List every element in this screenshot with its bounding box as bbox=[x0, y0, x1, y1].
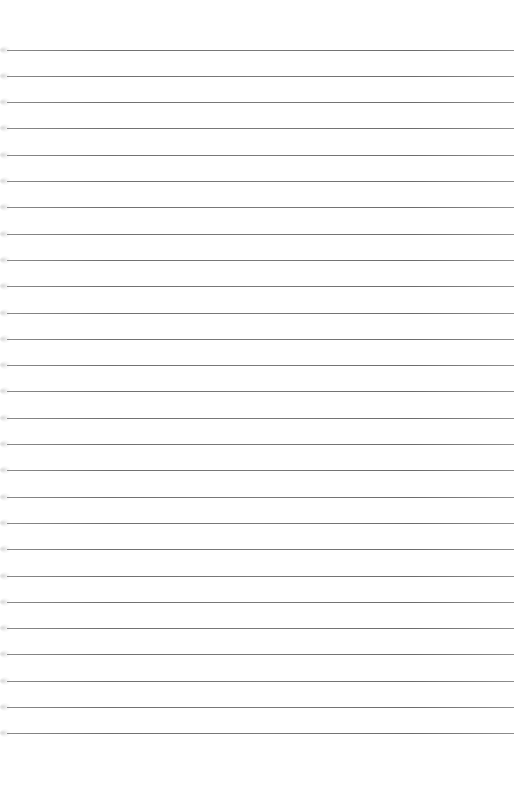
ruled-line bbox=[7, 681, 514, 682]
ruled-line bbox=[7, 365, 514, 366]
ruled-line bbox=[7, 444, 514, 445]
ruled-line bbox=[7, 102, 514, 103]
ruled-line bbox=[7, 76, 514, 77]
ruled-line bbox=[7, 707, 514, 708]
lined-paper-sheet bbox=[0, 0, 516, 798]
ruled-line bbox=[7, 50, 514, 51]
ruled-line bbox=[7, 234, 514, 235]
ruled-line bbox=[7, 181, 514, 182]
ruled-line bbox=[7, 497, 514, 498]
ruled-line bbox=[7, 260, 514, 261]
ruled-line bbox=[7, 628, 514, 629]
ruled-line bbox=[7, 523, 514, 524]
ruled-line bbox=[7, 418, 514, 419]
ruled-line bbox=[7, 207, 514, 208]
ruled-line bbox=[7, 549, 514, 550]
ruled-line bbox=[7, 733, 514, 734]
ruled-line bbox=[7, 654, 514, 655]
ruled-line bbox=[7, 470, 514, 471]
ruled-line bbox=[7, 391, 514, 392]
ruled-line bbox=[7, 155, 514, 156]
ruled-line bbox=[7, 128, 514, 129]
ruled-line bbox=[7, 602, 514, 603]
ruled-line bbox=[7, 576, 514, 577]
ruled-line bbox=[7, 339, 514, 340]
ruled-line bbox=[7, 286, 514, 287]
ruled-line bbox=[7, 313, 514, 314]
